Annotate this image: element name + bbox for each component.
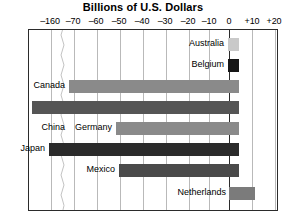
bar-germany[interactable] xyxy=(116,122,239,135)
bar-china[interactable] xyxy=(32,101,239,114)
gridline xyxy=(51,30,52,210)
x-tick-label: –50 xyxy=(112,16,127,26)
bar-belgium[interactable] xyxy=(228,59,239,72)
bar-canada[interactable] xyxy=(69,80,239,93)
gridline xyxy=(252,30,253,210)
chart-root: Billions of U.S. Dollars –160 –70 –60 –5… xyxy=(0,0,286,218)
chart-title: Billions of U.S. Dollars xyxy=(0,1,286,13)
gridline xyxy=(166,30,167,210)
gridline xyxy=(120,30,121,210)
gridline xyxy=(209,30,210,210)
x-tick-label: –30 xyxy=(158,16,173,26)
zero-axis-line xyxy=(229,30,230,210)
gridline xyxy=(74,30,75,210)
bar-netherlands[interactable] xyxy=(229,187,255,200)
x-tick-label: –20 xyxy=(181,16,196,26)
x-tick-label: –160 xyxy=(40,16,60,26)
bar-australia[interactable] xyxy=(228,38,239,51)
x-tick-label: 0 xyxy=(227,16,232,26)
gridline xyxy=(189,30,190,210)
x-tick-label: +20 xyxy=(267,16,282,26)
x-tick-label: –10 xyxy=(202,16,217,26)
x-tick-label: +10 xyxy=(245,16,260,26)
bar-japan[interactable] xyxy=(49,143,239,156)
bar-mexico[interactable] xyxy=(119,164,239,177)
x-tick-label: –60 xyxy=(89,16,104,26)
gridline xyxy=(97,30,98,210)
gridline xyxy=(143,30,144,210)
gridline xyxy=(275,30,276,210)
axis-break-icon xyxy=(59,30,66,210)
x-tick-label: –40 xyxy=(135,16,150,26)
plot-area xyxy=(28,29,278,211)
x-tick-label: –70 xyxy=(66,16,81,26)
